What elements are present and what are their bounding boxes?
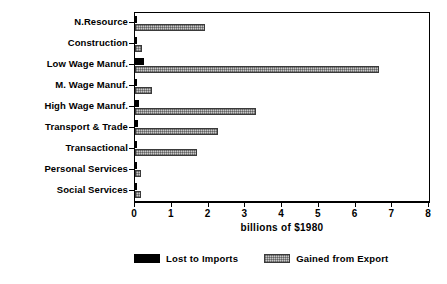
x-axis-tick-label: 4 xyxy=(271,208,291,219)
legend-swatch-imports-icon xyxy=(134,254,160,263)
bar-gained-from-export xyxy=(135,149,197,156)
x-axis-tick-label: 0 xyxy=(124,208,144,219)
x-axis-tick-label: 2 xyxy=(198,208,218,219)
category-tick xyxy=(129,127,135,128)
bar-gained-from-export xyxy=(135,87,152,94)
category-label: Construction xyxy=(0,38,128,48)
bar-group xyxy=(135,79,429,95)
x-axis-tick-label: 3 xyxy=(234,208,254,219)
x-axis-tick-label: 1 xyxy=(161,208,181,219)
bar-group xyxy=(135,183,429,199)
bar-gained-from-export xyxy=(135,128,218,135)
bar-lost-to-imports xyxy=(135,100,139,107)
category-tick xyxy=(129,43,135,44)
bar-group xyxy=(135,100,429,116)
category-label: N.Resource xyxy=(0,17,128,27)
chart-legend: Lost to Imports Gained from Export xyxy=(134,250,434,266)
x-axis-tick xyxy=(391,202,392,207)
category-label: Personal Services xyxy=(0,164,128,174)
x-axis-tick xyxy=(281,202,282,207)
bars-layer xyxy=(135,13,429,201)
category-label: M. Wage Manuf. xyxy=(0,80,128,90)
bar-group xyxy=(135,37,429,53)
bar-lost-to-imports xyxy=(135,141,137,148)
bar-group xyxy=(135,120,429,136)
bar-lost-to-imports xyxy=(135,79,137,86)
bar-group xyxy=(135,58,429,74)
category-tick xyxy=(129,85,135,86)
bar-lost-to-imports xyxy=(135,16,137,23)
legend-item-exports: Gained from Export xyxy=(264,253,388,264)
category-tick xyxy=(129,22,135,23)
legend-swatch-exports-icon xyxy=(264,254,290,263)
x-axis-tick xyxy=(355,202,356,207)
x-axis-tick-label: 6 xyxy=(345,208,365,219)
category-label: Transport & Trade xyxy=(0,122,128,132)
x-axis-title: billions of $1980 xyxy=(134,222,430,233)
x-axis-tick xyxy=(171,202,172,207)
x-axis-tick-label: 5 xyxy=(308,208,328,219)
bar-lost-to-imports xyxy=(135,183,137,190)
legend-label-imports: Lost to Imports xyxy=(166,253,238,264)
bar-lost-to-imports xyxy=(135,162,137,169)
category-axis: N.ResourceConstructionLow Wage Manuf.M. … xyxy=(0,12,128,202)
bar-group xyxy=(135,162,429,178)
bar-lost-to-imports xyxy=(135,58,144,65)
legend-label-exports: Gained from Export xyxy=(296,253,388,264)
x-axis-tick xyxy=(244,202,245,207)
bar-gained-from-export xyxy=(135,108,256,115)
category-tick xyxy=(129,190,135,191)
x-axis: 012345678 xyxy=(134,202,430,203)
category-label: High Wage Manuf. xyxy=(0,101,128,111)
bar-group xyxy=(135,16,429,32)
bar-lost-to-imports xyxy=(135,37,137,44)
category-label: Social Services xyxy=(0,185,128,195)
x-axis-tick xyxy=(428,202,429,207)
x-axis-tick xyxy=(318,202,319,207)
bar-gained-from-export xyxy=(135,191,141,198)
x-axis-tick-label: 7 xyxy=(381,208,401,219)
x-axis-tick xyxy=(134,202,135,207)
category-tick xyxy=(129,148,135,149)
bar-lost-to-imports xyxy=(135,120,138,127)
category-label: Transactional xyxy=(0,143,128,153)
category-label: Low Wage Manuf. xyxy=(0,59,128,69)
category-tick xyxy=(129,106,135,107)
category-tick xyxy=(129,169,135,170)
bar-gained-from-export xyxy=(135,170,141,177)
bar-gained-from-export xyxy=(135,24,205,31)
x-axis-tick-label: 8 xyxy=(418,208,438,219)
bar-chart: N.ResourceConstructionLow Wage Manuf.M. … xyxy=(0,0,447,284)
bar-gained-from-export xyxy=(135,66,379,73)
category-tick xyxy=(129,64,135,65)
x-axis-tick xyxy=(208,202,209,207)
legend-item-imports: Lost to Imports xyxy=(134,253,238,264)
bar-group xyxy=(135,141,429,157)
bar-gained-from-export xyxy=(135,45,142,52)
